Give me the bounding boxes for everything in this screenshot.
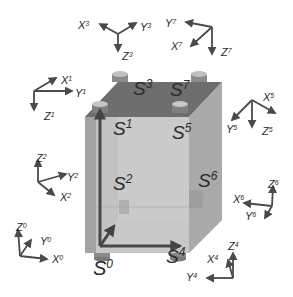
axis-label-x: X1 — [60, 74, 72, 86]
axis-label-x: X3 — [77, 19, 89, 31]
axis-label-z: Z3 — [121, 50, 133, 62]
axis-arrow-y — [186, 22, 212, 27]
axis-arrow-y — [265, 206, 272, 218]
sensor-label-s0: S0 — [93, 257, 113, 279]
axis-arrow-y — [232, 100, 252, 120]
axis-label-x: X7 — [170, 40, 183, 52]
axis-label-x: X0 — [51, 253, 63, 265]
frame-7: Y7X7Z7 — [165, 17, 233, 58]
axis-label-z: Z6 — [267, 178, 279, 190]
axis-label-y: Y6 — [245, 210, 256, 222]
axis-label-z: Z0 — [15, 221, 27, 233]
cube-left-edge — [85, 117, 96, 253]
axis-label-z: Z1 — [43, 110, 55, 122]
axis-arrow-x — [191, 27, 212, 46]
frame-2: Z2Y2X2 — [35, 152, 78, 203]
axis-label-z: Z4 — [227, 240, 239, 252]
axis-arrow-y — [118, 23, 136, 34]
frame-1: X1Y1Z1 — [34, 74, 86, 122]
axis-arrow-x — [38, 182, 54, 195]
axis-label-y: Y0 — [40, 235, 51, 247]
inner-shadow — [189, 190, 203, 208]
inner-shadow — [119, 200, 129, 214]
axis-arrow-z — [18, 230, 20, 256]
axis-label-x: X6 — [232, 193, 244, 205]
axis-label-z: Z2 — [35, 152, 47, 164]
axis-label-y: Y7 — [165, 17, 177, 29]
axis-label-x: X5 — [262, 91, 274, 103]
axis-label-z: Z7 — [220, 46, 233, 58]
sensor-label-s4: S4 — [166, 245, 186, 267]
axis-label-y: Y4 — [186, 271, 197, 283]
axis-arrow-y — [20, 240, 31, 256]
axis-label-x: X2 — [59, 191, 71, 203]
cap-s3 — [112, 71, 128, 82]
axis-arrow-x — [100, 24, 118, 34]
frame-6: Z6X6Y6 — [232, 178, 279, 222]
frame-3: X3Y3Z3 — [77, 19, 151, 62]
frame-0: Z0Y0X0 — [15, 221, 63, 265]
frame-5: X5Y5Z5 — [226, 91, 275, 137]
sensor-cube-diagram: S0S1S2S3S4S5S6S7 X3Y3Z3Y7X7Z7X1Y1Z1X5Y5Z… — [0, 0, 293, 297]
axis-label-y: Y2 — [67, 171, 78, 183]
axis-label-y: Y1 — [75, 87, 86, 99]
axis-arrow-x — [20, 256, 47, 259]
axis-arrow-x — [244, 203, 272, 206]
axis-arrow-x — [34, 78, 56, 91]
cube — [85, 71, 222, 262]
axis-arrow-y — [38, 174, 66, 182]
axis-label-x: X4 — [206, 253, 218, 265]
axis-label-y: Y5 — [226, 123, 237, 135]
axis-label-z: Z5 — [261, 125, 273, 137]
cap-s7 — [191, 71, 207, 82]
cap-s5 — [172, 101, 188, 113]
axis-label-y: Y3 — [140, 21, 151, 33]
